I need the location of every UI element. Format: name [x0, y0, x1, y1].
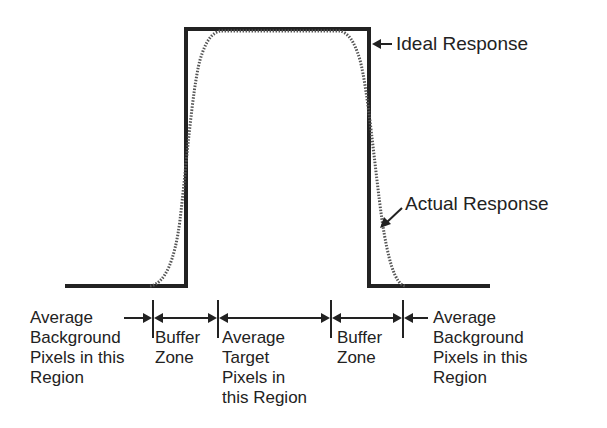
ideal-arrowhead-icon: [372, 39, 381, 49]
ideal-response-label: Ideal Response: [396, 34, 528, 54]
actual-response-label: Actual Response: [405, 194, 549, 214]
ideal-response-line: [65, 29, 490, 286]
actual-response-curve: [150, 31, 405, 286]
right-buffer-label: Buffer Zone: [337, 328, 382, 368]
right-background-label: Average Background Pixels in this Region: [433, 308, 527, 388]
actual-arrow-icon: [386, 208, 402, 223]
left-buffer-label: Buffer Zone: [155, 328, 200, 368]
left-background-label: Average Background Pixels in this Region: [30, 308, 124, 388]
target-label: Average Target Pixels in this Region: [222, 328, 307, 408]
